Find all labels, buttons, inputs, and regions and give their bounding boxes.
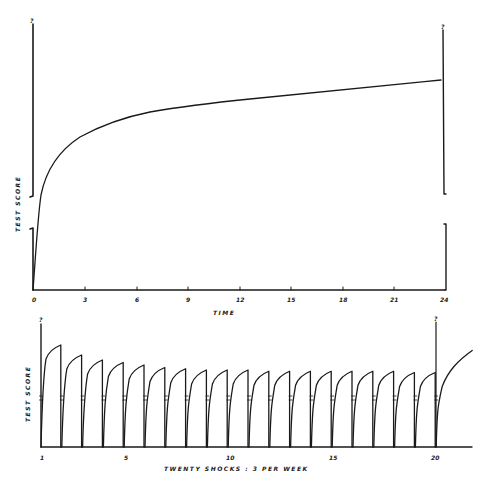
- bottom-chart: ? TEST SCORE ? 1 5 10 15 20 TWENTY SHOCK…: [24, 315, 472, 472]
- shock-cycle: [249, 371, 269, 447]
- bottom-y-axis-marker: ?: [39, 316, 43, 323]
- top-right-axis-lower: [444, 224, 446, 290]
- top-right-axis-upper: [443, 30, 446, 194]
- tick-label: 1: [40, 454, 44, 461]
- shock-cycle: [62, 355, 82, 447]
- tick-label: 15: [287, 296, 295, 303]
- top-learning-curve: [33, 80, 441, 290]
- tick-label: 5: [124, 454, 128, 461]
- top-right-axis-marker: ?: [441, 23, 445, 30]
- shock-cycle: [166, 369, 186, 447]
- shock-cycles: [40, 345, 473, 447]
- bottom-y-axis-label: TEST SCORE: [24, 366, 31, 422]
- shock-cycle: [207, 370, 227, 447]
- shock-20-marker: ?: [434, 315, 438, 322]
- tick-label: 0: [32, 296, 36, 303]
- tick-label: 15: [329, 454, 337, 461]
- shock-cycle: [291, 371, 311, 447]
- shock-cycle: [145, 368, 165, 448]
- shock-cycle: [436, 351, 472, 448]
- shock-cycle: [395, 373, 415, 448]
- tick-label: 6: [135, 296, 139, 303]
- tick-label: 12: [236, 296, 244, 303]
- tick-label: 10: [226, 454, 234, 461]
- shock-cycle: [415, 373, 435, 448]
- top-y-axis-upper: [30, 24, 33, 197]
- tick-label: 9: [186, 296, 190, 303]
- top-y-axis-label: TEST SCORE: [14, 176, 21, 232]
- figure: ? TEST SCORE 0 3 6 9 12 15 18 21 24 TIME…: [0, 0, 486, 481]
- bottom-x-axis-label: TWENTY SHOCKS : 3 PER WEEK: [164, 465, 309, 472]
- tick-label: 24: [440, 296, 448, 303]
- shock-cycle: [228, 370, 248, 447]
- top-x-tick-labels: 0 3 6 9 12 15 18 21 24: [32, 296, 448, 303]
- shock-cycle: [353, 371, 373, 447]
- shock-cycle: [187, 370, 207, 447]
- top-chart: ? TEST SCORE 0 3 6 9 12 15 18 21 24 TIME…: [14, 17, 448, 316]
- top-x-axis-label: TIME: [213, 309, 235, 316]
- shock-cycle: [311, 371, 331, 447]
- shock-cycle: [41, 345, 61, 447]
- tick-label: 20: [431, 454, 439, 461]
- bottom-x-tick-labels: 1 5 10 15 20: [40, 454, 439, 461]
- top-y-axis-marker: ?: [30, 17, 34, 24]
- tick-label: 3: [83, 296, 87, 303]
- shock-cycle: [270, 371, 290, 447]
- shock-cycle: [103, 363, 123, 448]
- tick-label: 18: [339, 296, 347, 303]
- top-y-axis-lower: [30, 228, 33, 290]
- shock-cycle: [83, 360, 103, 447]
- tick-label: 21: [390, 296, 398, 303]
- shock-cycle: [332, 371, 352, 447]
- shock-cycle: [124, 365, 144, 447]
- shock-cycle: [374, 371, 394, 447]
